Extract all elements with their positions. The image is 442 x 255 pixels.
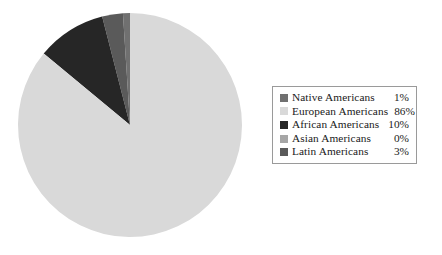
pie-chart-plot: Native Americans 1%Latin Americans 3%Afr… bbox=[17, 12, 243, 238]
legend-item-label: Asian Americans bbox=[292, 132, 388, 146]
legend-swatch-icon bbox=[280, 94, 288, 102]
legend-swatch-icon bbox=[280, 107, 288, 115]
pie-slice-group: Native Americans 1%Latin Americans 3%Afr… bbox=[18, 13, 242, 237]
chart-legend: Native Americans1%European Americans86%A… bbox=[272, 86, 417, 164]
legend-list: Native Americans1%European Americans86%A… bbox=[280, 91, 409, 159]
legend-item-value: 1% bbox=[388, 91, 409, 105]
legend-item-label: African Americans bbox=[292, 118, 382, 132]
legend-swatch-icon bbox=[280, 121, 288, 129]
legend-item-label: European Americans bbox=[292, 105, 388, 119]
legend-swatch-icon bbox=[280, 135, 288, 143]
legend-item[interactable]: Latin Americans3% bbox=[280, 145, 409, 159]
legend-item-label: Native Americans bbox=[292, 91, 388, 105]
legend-item[interactable]: Native Americans1% bbox=[280, 91, 409, 105]
legend-item-label: Latin Americans bbox=[292, 145, 388, 159]
legend-item-value: 10% bbox=[382, 118, 409, 132]
legend-item-value: 86% bbox=[388, 105, 415, 119]
legend-item[interactable]: European Americans86% bbox=[280, 105, 409, 119]
pie-chart-figure: Native Americans 1%Latin Americans 3%Afr… bbox=[0, 0, 442, 255]
legend-swatch-icon bbox=[280, 148, 288, 156]
legend-item-value: 0% bbox=[388, 132, 409, 146]
pie-svg: Native Americans 1%Latin Americans 3%Afr… bbox=[17, 12, 243, 238]
legend-item[interactable]: African Americans10% bbox=[280, 118, 409, 132]
legend-item[interactable]: Asian Americans0% bbox=[280, 132, 409, 146]
legend-item-value: 3% bbox=[388, 145, 409, 159]
